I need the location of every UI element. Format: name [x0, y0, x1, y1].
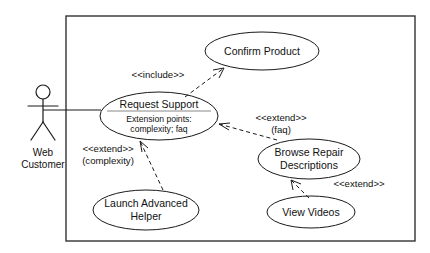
use-case-launch-advanced-helper[interactable]: Launch Advanced Helper: [93, 190, 199, 230]
use-case-request-support[interactable]: Request Support Extension points: comple…: [100, 92, 218, 140]
actor-head-icon: [36, 85, 50, 99]
actor-web-customer[interactable]: Web Customer: [21, 85, 65, 170]
view-videos-label: View Videos: [282, 206, 339, 218]
diagram-canvas: Web Customer Confirm Product Request Sup…: [0, 0, 430, 253]
request-support-extension-title: Extension points:: [126, 114, 191, 124]
extend-videos-dashed-line: [291, 180, 309, 198]
extend-faq-stereotype-label: <<extend>>: [255, 112, 307, 123]
extend-videos-stereotype-label: <<extend>>: [333, 178, 385, 189]
extend-complexity-dashed-line: [140, 141, 163, 190]
launch-advanced-helper-label-line2: Helper: [131, 210, 162, 222]
include-stereotype-label: <<include>>: [132, 69, 185, 80]
extend-complexity-stereotype-label: <<extend>>: [82, 143, 134, 154]
use-case-confirm-product[interactable]: Confirm Product: [205, 32, 319, 70]
launch-advanced-helper-label-line1: Launch Advanced: [104, 197, 188, 209]
request-support-extension-items: complexity; faq: [130, 124, 188, 134]
extend-complexity-condition-label: (complexity): [82, 155, 134, 166]
relationship-extend-faq: <<extend>> (faq): [219, 112, 307, 140]
extend-faq-dashed-line: [219, 124, 277, 140]
relationship-extend-view-videos: <<extend>>: [291, 178, 385, 198]
actor-right-leg-icon: [43, 122, 55, 140]
actor-label-line1: Web: [33, 147, 54, 158]
extend-faq-condition-label: (faq): [271, 124, 291, 135]
browse-repair-descriptions-label-line2: Descriptions: [280, 159, 338, 171]
confirm-product-label: Confirm Product: [224, 45, 300, 57]
actor-left-leg-icon: [31, 122, 43, 140]
actor-label-line2: Customer: [21, 159, 65, 170]
include-arrow-head-icon: [213, 68, 224, 78]
browse-repair-descriptions-label-line1: Browse Repair: [275, 146, 344, 158]
request-support-label: Request Support: [120, 98, 199, 110]
include-dashed-line: [185, 68, 224, 97]
relationship-extend-complexity: <<extend>> (complexity): [82, 141, 163, 190]
use-case-diagram: Web Customer Confirm Product Request Sup…: [0, 0, 430, 253]
use-case-view-videos[interactable]: View Videos: [267, 196, 355, 228]
use-case-browse-repair-descriptions[interactable]: Browse Repair Descriptions: [258, 139, 360, 179]
